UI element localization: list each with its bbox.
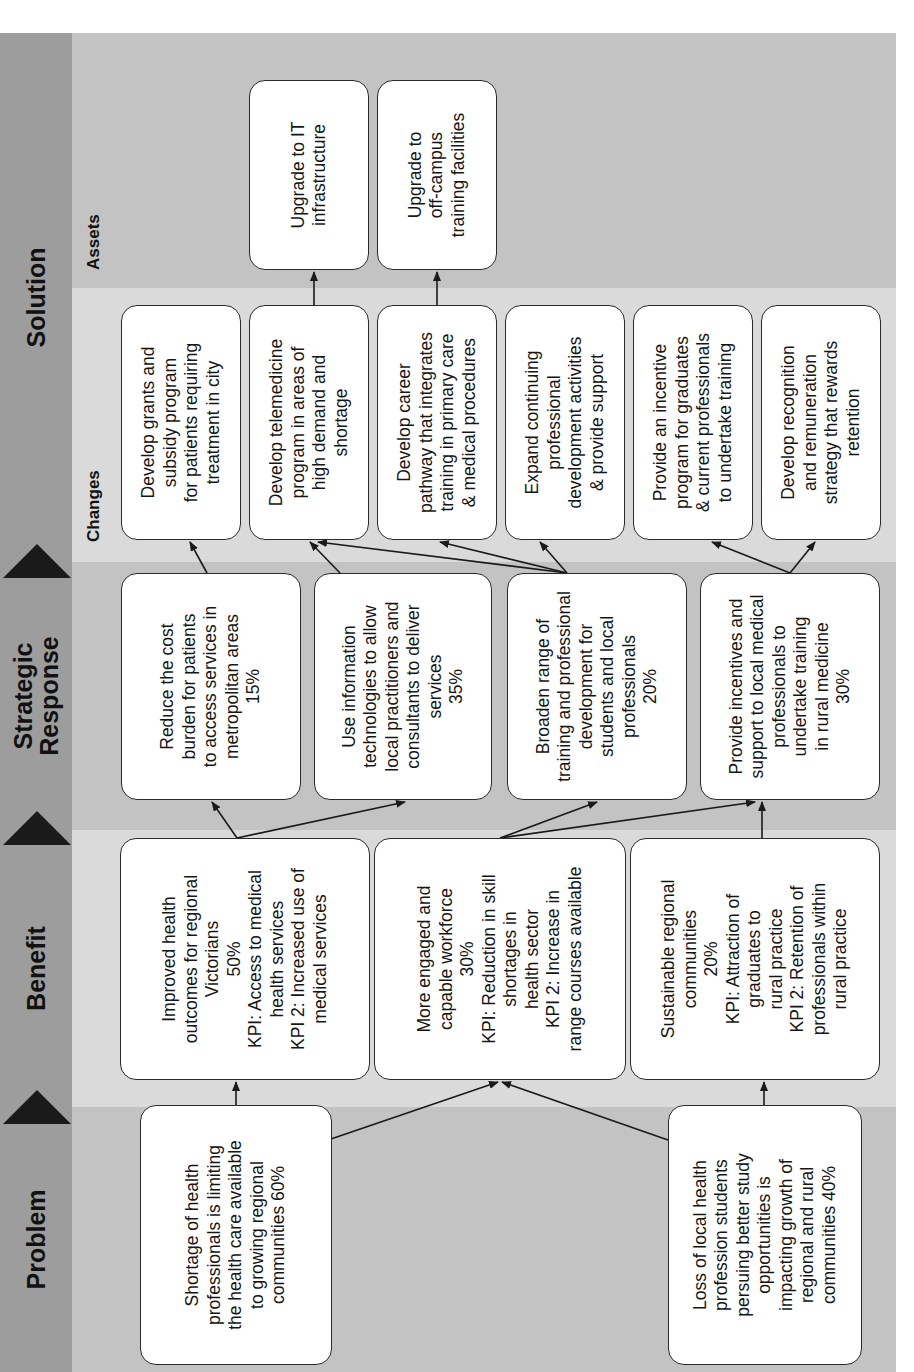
change-box: Develop grants and subsidy program for p…	[121, 305, 241, 540]
change-text: Develop career pathway that integrates t…	[394, 332, 480, 513]
asset-box: Upgrade to off-campus training facilitie…	[377, 80, 497, 270]
change-box: Develop telemedicine program in areas of…	[249, 305, 369, 540]
benefit-text: Sustainable regional communities 20% KPI…	[658, 880, 852, 1039]
asset-box: Upgrade to IT infrastructure	[249, 80, 369, 270]
change-text: Expand continuing professional developme…	[522, 336, 608, 508]
problem-text: Loss of local health profession students…	[690, 1153, 841, 1316]
problem-box: Shortage of health professionals is limi…	[140, 1105, 332, 1365]
change-box: Expand continuing professional developme…	[505, 305, 625, 540]
change-text: Provide an incentive program for graduat…	[650, 333, 736, 512]
strategic-response-box: Use information technologies to allow lo…	[314, 573, 492, 800]
strategic-response-box: Reduce the cost burden for patients to a…	[121, 573, 301, 800]
change-text: Develop grants and subsidy program for p…	[138, 343, 224, 503]
asset-text: Upgrade to IT infrastructure	[288, 122, 331, 229]
asset-text: Upgrade to off-campus training facilitie…	[405, 113, 470, 238]
benefit-text: More engaged and capable workforce 30% K…	[414, 867, 586, 1052]
strategic-response-text: Broaden range of training and profession…	[533, 591, 662, 782]
change-box: Develop recognition and remuneration str…	[761, 305, 881, 540]
change-box: Develop career pathway that integrates t…	[377, 305, 497, 540]
benefit-text: Improved health outcomes for regional Vi…	[159, 868, 331, 1050]
strategic-response-text: Reduce the cost burden for patients to a…	[157, 606, 265, 767]
problem-text: Shortage of health professionals is limi…	[182, 1140, 290, 1330]
benefit-box: Sustainable regional communities 20% KPI…	[630, 838, 880, 1080]
strategic-response-text: Provide incentives and support to local …	[726, 595, 855, 779]
problem-box: Loss of local health profession students…	[668, 1105, 862, 1365]
change-text: Develop recognition and remuneration str…	[778, 341, 864, 504]
strategic-response-box: Broaden range of training and profession…	[507, 573, 687, 800]
change-text: Develop telemedicine program in areas of…	[266, 339, 352, 506]
change-box: Provide an incentive program for graduat…	[633, 305, 753, 540]
benefit-box: More engaged and capable workforce 30% K…	[374, 838, 626, 1080]
benefit-box: Improved health outcomes for regional Vi…	[120, 838, 370, 1080]
diagram-viewport: Problem Benefit Strategic Response Solut…	[0, 0, 914, 1372]
strategic-response-text: Use information technologies to allow lo…	[339, 601, 468, 771]
strategic-response-box: Provide incentives and support to local …	[700, 573, 880, 800]
benefits-logic-map: Problem Benefit Strategic Response Solut…	[0, 0, 914, 1372]
